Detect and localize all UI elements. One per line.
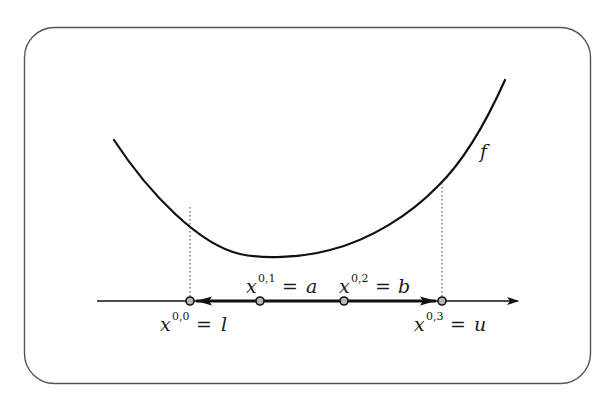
svg-text:=: = xyxy=(375,275,391,297)
svg-text:=: = xyxy=(450,313,466,335)
point-x02 xyxy=(340,297,348,305)
point-x03 xyxy=(438,297,446,305)
label-x02: x 0,2 = b xyxy=(339,272,410,297)
svg-text:x: x xyxy=(414,313,425,335)
svg-text:0,2: 0,2 xyxy=(351,272,369,285)
svg-text:x: x xyxy=(160,313,171,335)
label-x01: x 0,1 = a xyxy=(246,272,317,297)
function-curve xyxy=(114,80,505,257)
svg-text:=: = xyxy=(196,313,212,335)
point-x01 xyxy=(256,297,264,305)
label-x03: x 0,3 = u xyxy=(414,310,486,335)
svg-text:l: l xyxy=(221,313,227,335)
svg-text:0,3: 0,3 xyxy=(426,310,444,323)
point-x00 xyxy=(186,297,194,305)
svg-text:0,0: 0,0 xyxy=(172,310,190,323)
svg-text:x: x xyxy=(339,275,350,297)
svg-text:0,1: 0,1 xyxy=(258,272,276,285)
svg-text:u: u xyxy=(474,313,486,335)
svg-text:b: b xyxy=(398,275,410,297)
svg-text:=: = xyxy=(282,275,298,297)
label-x00: x 0,0 = l xyxy=(160,310,227,335)
function-label: f xyxy=(478,140,490,162)
bracketing-diagram: f x 0,0 = l x 0,1 = a x 0,2 = b x 0,3 = … xyxy=(0,0,612,401)
svg-text:x: x xyxy=(246,275,257,297)
svg-text:a: a xyxy=(306,275,317,297)
